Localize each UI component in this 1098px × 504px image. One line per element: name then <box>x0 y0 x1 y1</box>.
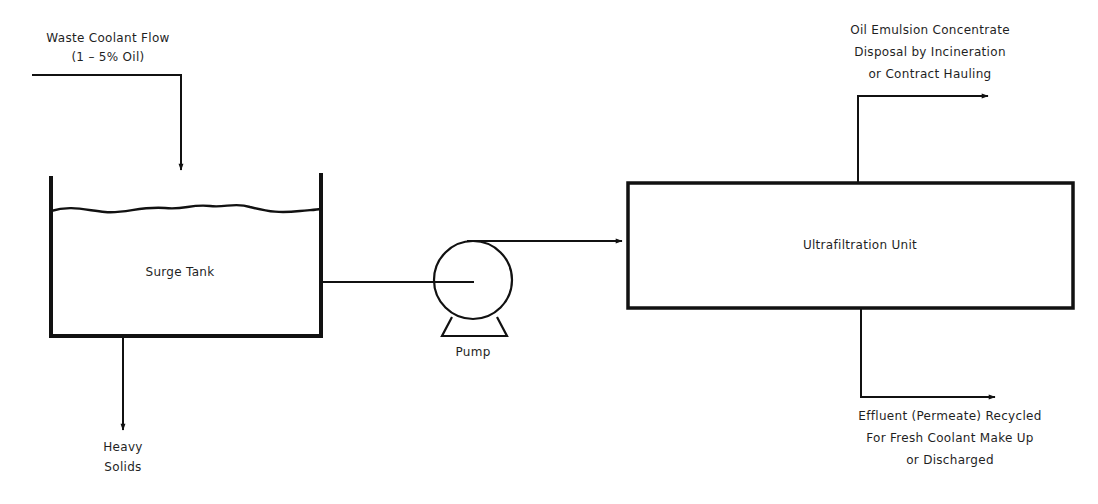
permeate-outlet-arrow <box>861 309 995 397</box>
liquid-surface-wave <box>51 205 321 212</box>
inlet-label-line2: (1 – 5% Oil) <box>28 46 188 68</box>
concentrate-line2: Disposal by Incineration <box>815 41 1045 63</box>
heavy-solids-line1: Heavy <box>93 436 153 458</box>
heavy-solids-label: Heavy Solids <box>93 436 153 478</box>
permeate-line3: or Discharged <box>830 449 1070 471</box>
concentrate-line3: or Contract Hauling <box>815 63 1045 85</box>
permeate-line2: For Fresh Coolant Make Up <box>830 427 1070 449</box>
inlet-label: Waste Coolant Flow (1 – 5% Oil) <box>28 27 188 68</box>
concentrate-line1: Oil Emulsion Concentrate <box>815 19 1045 41</box>
pump-label: Pump <box>443 341 503 363</box>
surge-tank-vessel <box>51 173 321 336</box>
heavy-solids-line2: Solids <box>93 456 153 478</box>
ultrafiltration-unit-label: Ultrafiltration Unit <box>780 234 940 256</box>
concentrate-outlet-arrow <box>858 96 988 182</box>
permeate-label: Effluent (Permeate) Recycled For Fresh C… <box>830 405 1070 471</box>
inlet-flow-arrow <box>32 75 181 170</box>
pump-icon <box>434 241 512 336</box>
permeate-line1: Effluent (Permeate) Recycled <box>830 405 1070 427</box>
surge-tank-label: Surge Tank <box>120 261 240 283</box>
concentrate-label: Oil Emulsion Concentrate Disposal by Inc… <box>815 19 1045 85</box>
